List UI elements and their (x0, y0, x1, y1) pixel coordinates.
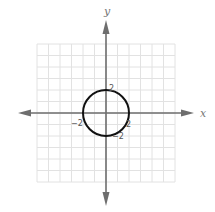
y-axis-label: y (103, 5, 111, 18)
x-axis-label: x (200, 107, 207, 120)
x-axis-left-arrow-icon (18, 110, 31, 117)
coordinate-plane: y x 2 −2 2 −2 (0, 0, 215, 212)
y-axis-bottom-arrow-icon (103, 192, 110, 206)
label-left: −2 (71, 119, 83, 128)
label-top: 2 (109, 84, 114, 93)
label-right: 2 (126, 120, 131, 129)
x-axis-right-arrow-icon (181, 110, 194, 117)
y-axis-top-arrow-icon (103, 20, 110, 34)
label-bottom: −2 (112, 132, 124, 141)
